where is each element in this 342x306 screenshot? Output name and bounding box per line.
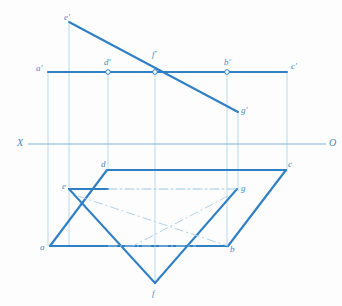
label-a-prime: a' (36, 64, 42, 73)
edge-a-d (50, 170, 107, 246)
marker-b-prime (225, 70, 230, 75)
label-d-point: d (101, 160, 106, 169)
label-d-prime: d' (104, 58, 110, 67)
edge-c-b (228, 170, 286, 246)
label-f-prime: f' (152, 50, 156, 59)
technical-drawing-canvas: e' f' d' b' a' c' g' X O d c e g a b f (0, 0, 342, 306)
label-b-prime: b' (224, 58, 230, 67)
label-c-prime: c' (291, 62, 297, 71)
label-g-point: g (241, 184, 246, 193)
label-f-point: f (152, 289, 155, 298)
label-o-axis: O (329, 138, 336, 148)
label-e-prime: e' (64, 13, 70, 22)
front-view (48, 22, 287, 112)
top-view-triangle (69, 189, 237, 283)
label-g-prime: g' (241, 106, 247, 115)
hidden-line-g-to-a (133, 196, 228, 246)
hidden-intersection-lines (78, 196, 228, 246)
edge-e-prime-g-prime (69, 22, 238, 112)
label-b-point: b (230, 245, 235, 254)
hidden-line-e-to-b (78, 196, 228, 246)
edge-e-f (69, 189, 155, 283)
marker-f-prime (153, 70, 158, 75)
projection-geometry (0, 0, 342, 306)
label-e-point: e (62, 182, 66, 191)
label-c-point: c (288, 160, 292, 169)
label-a-point: a (40, 243, 45, 252)
label-x-axis: X (17, 138, 23, 148)
marker-d-prime (106, 70, 111, 75)
edge-f-g (155, 189, 237, 283)
